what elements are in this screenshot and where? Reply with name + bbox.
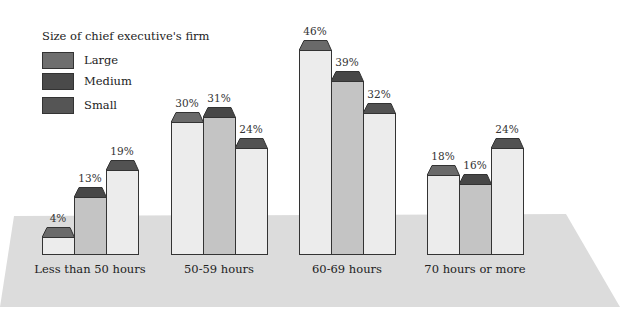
category-label: Less than 50 hours <box>20 262 160 276</box>
bar-cap-large <box>42 227 75 238</box>
legend-swatch-medium <box>42 73 74 90</box>
bar-cap-medium <box>331 71 364 82</box>
legend-label: Small <box>84 98 117 112</box>
bar-cap-small <box>106 160 139 171</box>
value-label: 31% <box>199 92 239 104</box>
legend-swatch-large <box>42 52 74 69</box>
bar-cap-medium <box>203 107 236 118</box>
bar-small <box>363 113 396 255</box>
bar-large <box>42 237 75 255</box>
bar-cap-large <box>171 112 204 123</box>
value-label: 16% <box>455 159 495 171</box>
bar-medium <box>331 81 364 255</box>
legend-label: Medium <box>84 74 132 88</box>
value-label: 24% <box>231 123 271 135</box>
value-label: 13% <box>70 172 110 184</box>
legend-swatch-small <box>42 97 74 114</box>
value-label: 32% <box>359 88 399 100</box>
value-label: 24% <box>487 123 527 135</box>
value-label: 19% <box>102 145 142 157</box>
bar-cap-small <box>491 138 524 149</box>
category-label: 50-59 hours <box>149 262 289 276</box>
bar-cap-small <box>235 138 268 149</box>
bar-cap-medium <box>459 174 492 185</box>
bar-medium <box>459 184 492 255</box>
bar-medium <box>74 197 107 255</box>
bar-cap-medium <box>74 187 107 198</box>
category-label: 60-69 hours <box>277 262 417 276</box>
legend-label: Large <box>84 53 118 67</box>
value-label: 4% <box>38 212 78 224</box>
bar-small <box>235 148 268 255</box>
value-label: 39% <box>327 56 367 68</box>
bar-medium <box>203 117 236 255</box>
bar-large <box>299 50 332 255</box>
bar-large <box>171 122 204 256</box>
bar-cap-large <box>299 40 332 51</box>
value-label: 46% <box>295 25 335 37</box>
bar-chart: Size of chief executive's firm Large Med… <box>0 0 634 325</box>
bar-cap-small <box>363 103 396 114</box>
bar-large <box>427 175 460 255</box>
bar-small <box>106 170 139 255</box>
bar-small <box>491 148 524 255</box>
legend-title: Size of chief executive's firm <box>42 29 210 43</box>
category-label: 70 hours or more <box>405 262 545 276</box>
